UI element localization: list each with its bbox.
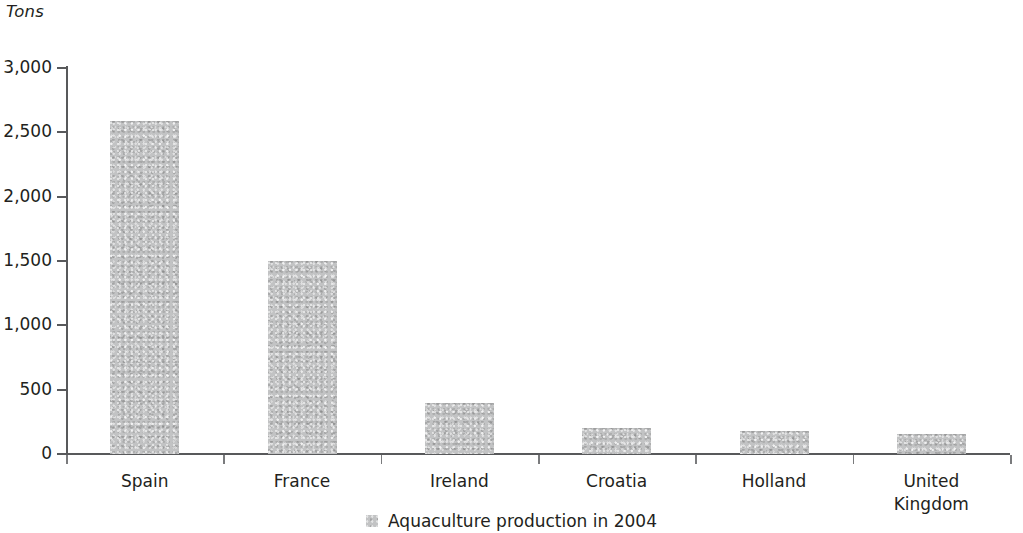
y-axis-tick-mark [57, 389, 66, 391]
y-axis-tick-mark [57, 67, 66, 69]
bars-container [66, 68, 1010, 454]
legend-label: Aquaculture production in 2004 [388, 511, 657, 531]
y-axis-tick-label: 500 [20, 378, 52, 400]
x-axis-tick-mark [1010, 455, 1012, 464]
x-axis-tick-mark [66, 455, 68, 464]
x-axis-category-label: Ireland [381, 470, 538, 493]
x-axis-tick-mark [695, 455, 697, 464]
x-axis-category-label: Spain [66, 470, 223, 493]
y-axis-tick-label: 2,000 [3, 185, 52, 207]
x-axis-tick-mark [381, 455, 383, 464]
bar [268, 261, 337, 454]
bar [897, 434, 966, 454]
x-axis-tick-mark [853, 455, 855, 464]
y-axis-tick-mark [57, 260, 66, 262]
y-axis-tick-label: 1,000 [3, 313, 52, 335]
legend-swatch-icon [366, 515, 378, 527]
y-axis-tick-label: 0 [41, 442, 52, 464]
x-axis-category-label: United Kingdom [853, 470, 1010, 516]
x-axis-category-label: France [223, 470, 380, 493]
y-axis-unit-label: Tons [6, 2, 44, 21]
y-axis-tick-label: 2,500 [3, 120, 52, 142]
y-axis-tick-label: 1,500 [3, 249, 52, 271]
y-axis-tick-label: 3,000 [3, 56, 52, 78]
x-axis-tick-mark [223, 455, 225, 464]
bar-chart: Tons 3,0002,5002,0001,5001,0005000 Spain… [0, 0, 1023, 533]
x-axis-category-label: Holland [695, 470, 852, 493]
chart-legend: Aquaculture production in 2004 [0, 511, 1023, 531]
y-axis-tick-mark [57, 131, 66, 133]
x-axis-tick-mark [538, 455, 540, 464]
y-axis-tick-mark [57, 196, 66, 198]
y-axis-tick-mark [57, 324, 66, 326]
bar [740, 431, 809, 454]
y-axis-tick-mark [57, 453, 66, 455]
bar [425, 403, 494, 454]
bar [582, 428, 651, 454]
bar [110, 121, 179, 454]
x-axis-category-label: Croatia [538, 470, 695, 493]
